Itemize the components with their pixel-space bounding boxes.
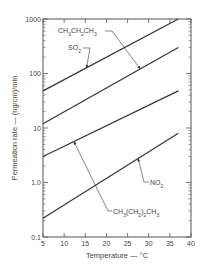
x-axis-label: Temperature — °C: [86, 251, 149, 260]
x-tick-label: 15: [81, 240, 89, 247]
x-tick-label: 25: [124, 240, 132, 247]
annotation-propane: CH3CH2CH3: [58, 27, 97, 37]
y-tick-label: 100: [29, 70, 41, 77]
data-lines: [43, 19, 178, 218]
x-tick-label: 30: [145, 240, 153, 247]
annotation-no2: NO2: [150, 179, 164, 189]
propane-arrow: [105, 31, 140, 69]
x-tick-label: 5: [41, 240, 45, 247]
x-tick-label: 10: [60, 240, 68, 247]
permeation-rate-chart: 5101520253035400.11.0101001000 CH3CH2CH3…: [0, 0, 205, 271]
x-tick-label: 40: [187, 240, 195, 247]
y-axis-label: Permeation rate — (ng/cm)/min: [10, 76, 19, 181]
x-tick-label: 20: [103, 240, 111, 247]
annotation-so2: SO2: [68, 44, 81, 54]
butane-arrow: [74, 142, 112, 211]
x-tick-label: 35: [166, 240, 174, 247]
y-tick-label: 1000: [25, 16, 41, 23]
series-line: [43, 47, 178, 123]
y-tick-label: 1.0: [31, 179, 41, 186]
so2-arrow: [83, 48, 90, 68]
axis-ticks: 5101520253035400.11.0101001000: [25, 16, 195, 248]
annotation-butane: CH3(CH2)2CH3: [113, 208, 159, 218]
y-tick-label: 10: [33, 125, 41, 132]
no2-arrow: [138, 159, 149, 182]
annotations: CH3CH2CH3SO2NO2CH3(CH2)2CH3: [58, 27, 164, 218]
y-tick-label: 0.1: [31, 234, 41, 241]
